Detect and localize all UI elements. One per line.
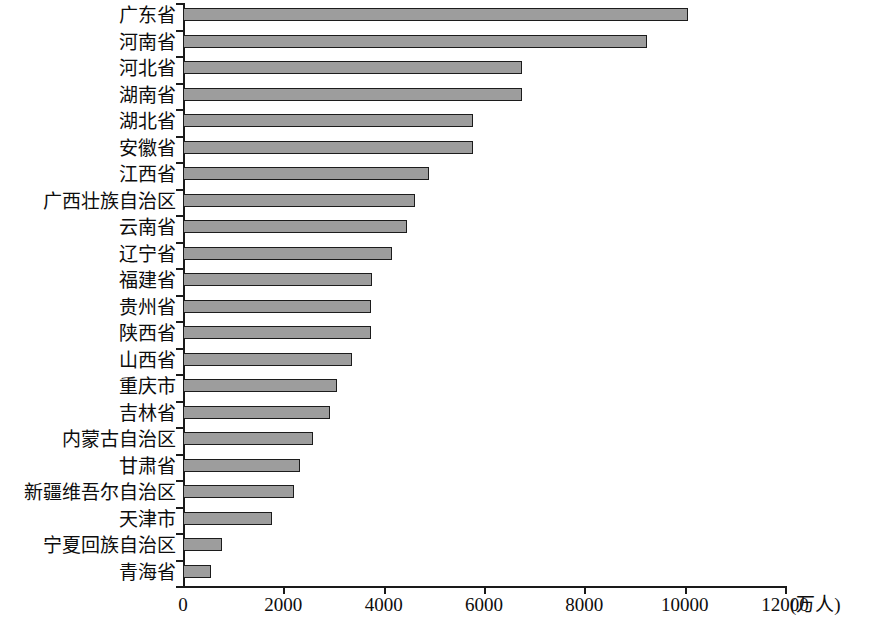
bar-row xyxy=(183,242,785,269)
category-label: 河北省 xyxy=(0,59,176,79)
bar-row xyxy=(183,109,785,136)
y-axis-tick xyxy=(176,136,185,138)
bar xyxy=(183,247,392,260)
y-axis-tick xyxy=(176,30,185,32)
bar-row xyxy=(183,427,785,454)
category-label: 辽宁省 xyxy=(0,245,176,265)
y-axis-tick xyxy=(176,348,185,350)
bar-row xyxy=(183,374,785,401)
category-label: 山西省 xyxy=(0,351,176,371)
category-label: 福建省 xyxy=(0,271,176,291)
bar xyxy=(183,379,337,392)
x-axis-tick xyxy=(484,586,486,594)
bar xyxy=(183,141,473,154)
category-label: 天津市 xyxy=(0,510,176,530)
y-axis-tick xyxy=(176,56,185,58)
bar xyxy=(183,485,294,498)
category-label: 安徽省 xyxy=(0,139,176,159)
y-axis-tick xyxy=(176,215,185,217)
bar xyxy=(183,8,688,21)
category-label: 广东省 xyxy=(0,6,176,26)
x-axis-tick xyxy=(384,586,386,594)
bar-row xyxy=(183,295,785,322)
bar xyxy=(183,61,522,74)
bar-row xyxy=(183,454,785,481)
category-label: 陕西省 xyxy=(0,324,176,344)
bar-row xyxy=(183,321,785,348)
category-label: 内蒙古自治区 xyxy=(0,430,176,450)
y-axis-tick xyxy=(176,268,185,270)
bar xyxy=(183,565,211,578)
bar-row xyxy=(183,480,785,507)
y-axis-tick xyxy=(176,560,185,562)
bar xyxy=(183,538,222,551)
bar-row xyxy=(183,56,785,83)
category-label: 贵州省 xyxy=(0,298,176,318)
category-label: 河南省 xyxy=(0,33,176,53)
bar xyxy=(183,432,313,445)
y-axis-tick xyxy=(176,427,185,429)
bar-row xyxy=(183,83,785,110)
y-axis-tick xyxy=(176,321,185,323)
bar-row xyxy=(183,136,785,163)
bar-row xyxy=(183,348,785,375)
bar xyxy=(183,300,371,313)
x-axis-tick-label: 2000 xyxy=(264,594,302,615)
category-label: 青海省 xyxy=(0,563,176,583)
category-label: 吉林省 xyxy=(0,404,176,424)
plot-area xyxy=(183,3,785,586)
bar xyxy=(183,512,272,525)
y-axis-tick xyxy=(176,507,185,509)
y-axis-tick xyxy=(176,401,185,403)
x-axis-tick xyxy=(283,586,285,594)
bar-row xyxy=(183,560,785,587)
x-axis-tick-label: 8000 xyxy=(565,594,603,615)
y-axis-tick xyxy=(176,454,185,456)
category-label: 重庆市 xyxy=(0,377,176,397)
y-axis-tick xyxy=(176,374,185,376)
bar-row xyxy=(183,162,785,189)
x-axis-tick xyxy=(584,586,586,594)
bar xyxy=(183,406,330,419)
y-axis-tick xyxy=(176,83,185,85)
x-axis-tick xyxy=(785,586,787,594)
bar-row xyxy=(183,30,785,57)
x-axis-tick-label: 6000 xyxy=(465,594,503,615)
y-axis-tick xyxy=(176,189,185,191)
y-axis-tick xyxy=(176,480,185,482)
x-axis-tick-label: 0 xyxy=(178,594,188,615)
category-label: 宁夏回族自治区 xyxy=(0,536,176,556)
category-label: 湖北省 xyxy=(0,112,176,132)
bar xyxy=(183,220,407,233)
x-axis-tick-label: 10000 xyxy=(661,594,709,615)
bar xyxy=(183,459,300,472)
y-axis-tick xyxy=(176,242,185,244)
x-axis-tick-label: 4000 xyxy=(365,594,403,615)
bar-row xyxy=(183,401,785,428)
bar-chart-figure: 广东省河南省河北省湖南省湖北省安徽省江西省广西壮族自治区云南省辽宁省福建省贵州省… xyxy=(0,0,883,620)
category-label: 云南省 xyxy=(0,218,176,238)
bar-row xyxy=(183,533,785,560)
category-label: 江西省 xyxy=(0,165,176,185)
bar-row xyxy=(183,3,785,30)
category-label: 广西壮族自治区 xyxy=(0,192,176,212)
bar-row xyxy=(183,189,785,216)
y-axis-tick xyxy=(176,533,185,535)
x-axis-tick xyxy=(685,586,687,594)
y-axis-tick xyxy=(176,162,185,164)
category-axis-labels: 广东省河南省河北省湖南省湖北省安徽省江西省广西壮族自治区云南省辽宁省福建省贵州省… xyxy=(0,3,178,586)
category-label: 甘肃省 xyxy=(0,457,176,477)
bar xyxy=(183,194,415,207)
bar xyxy=(183,114,473,127)
bar-row xyxy=(183,268,785,295)
y-axis-tick xyxy=(176,3,185,5)
bar xyxy=(183,167,429,180)
y-axis-tick xyxy=(176,109,185,111)
bar xyxy=(183,35,647,48)
bar-row xyxy=(183,507,785,534)
category-label: 新疆维吾尔自治区 xyxy=(0,483,176,503)
bar xyxy=(183,326,371,339)
bar xyxy=(183,273,372,286)
bar xyxy=(183,88,522,101)
bar-row xyxy=(183,215,785,242)
